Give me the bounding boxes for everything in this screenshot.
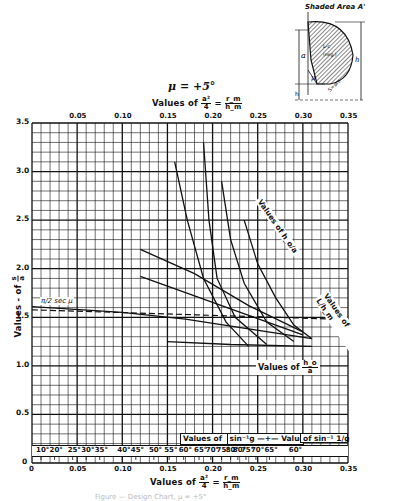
tick-label: 40° — [117, 446, 130, 454]
ref-line-label: π/2 sec μ — [40, 297, 74, 305]
tick-label: 10° — [36, 446, 49, 454]
tick-label: 50° — [149, 446, 162, 454]
tick-label: 55° — [164, 446, 177, 454]
tick-label: 25° — [68, 446, 81, 454]
curve — [244, 220, 312, 339]
ho-values-label: Values of h_oa — [256, 360, 320, 375]
tick-label: 35° — [95, 446, 108, 454]
tick-label: 30° — [81, 446, 94, 454]
angle-scale-header: Values of sin⁻¹g —+— Values — [180, 433, 304, 445]
angle-scale-right: of sin⁻¹ 1/g — [300, 433, 348, 443]
tick-label: 20° — [50, 446, 63, 454]
tick-label: 65° — [264, 446, 277, 454]
tick-label: 60° — [289, 446, 302, 454]
tick-label: 45° — [131, 446, 144, 454]
bottom-axis-label: Values of a²4 = r_mh_m — [150, 475, 240, 490]
tick-label: 70° — [251, 446, 264, 454]
tick-label: 60° — [179, 446, 192, 454]
figure-caption: Figure — Design Chart, μ = +5° — [95, 493, 207, 501]
